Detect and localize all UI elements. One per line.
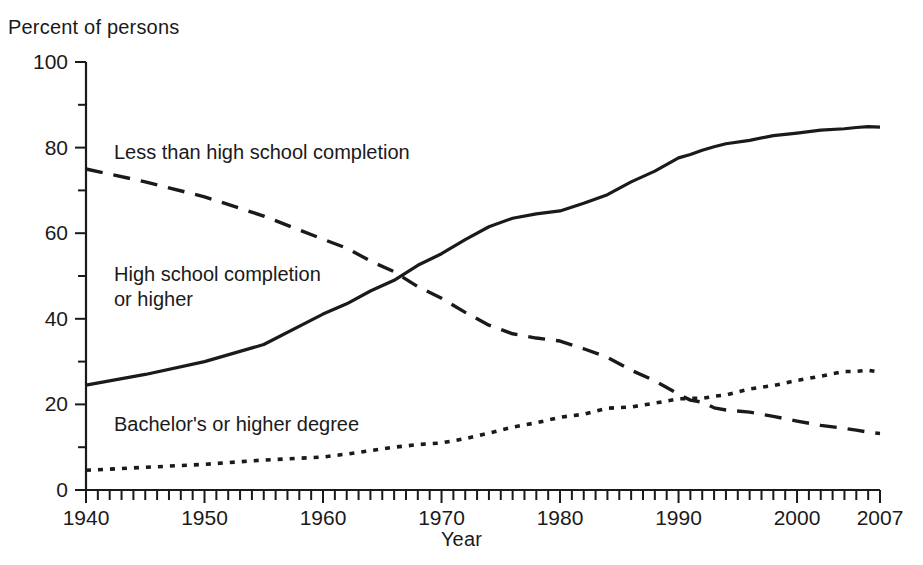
series-line-1 [86, 127, 880, 386]
y-tick-label-40: 40 [0, 307, 68, 331]
x-axis-title: Year [0, 528, 923, 551]
x-tick-label-1950: 1950 [181, 506, 228, 530]
y-tick-label-20: 20 [0, 392, 68, 416]
y-tick-label-60: 60 [0, 221, 68, 245]
x-tick-label-2007: 2007 [857, 506, 904, 530]
x-tick-label-2000: 2000 [774, 506, 821, 530]
chart-container: Percent of persons Year 020406080100 194… [0, 0, 923, 565]
y-axis-title: Percent of persons [8, 16, 179, 39]
series-annotation-2: Bachelor's or higher degree [114, 412, 359, 437]
x-tick-label-1990: 1990 [655, 506, 702, 530]
x-tick-label-1970: 1970 [418, 506, 465, 530]
y-tick-label-100: 100 [0, 50, 68, 74]
y-tick-label-0: 0 [0, 478, 68, 502]
series-annotation-1: High school completion or higher [114, 262, 321, 312]
x-tick-label-1980: 1980 [537, 506, 584, 530]
x-tick-label-1960: 1960 [300, 506, 347, 530]
y-tick-label-80: 80 [0, 136, 68, 160]
series-annotation-0: Less than high school completion [114, 140, 410, 165]
x-tick-label-1940: 1940 [63, 506, 110, 530]
